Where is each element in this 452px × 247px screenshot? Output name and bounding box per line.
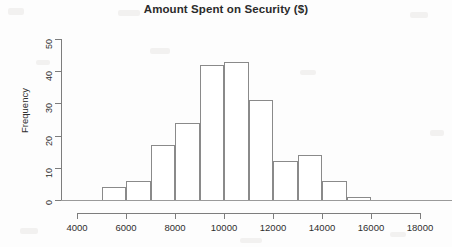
y-tick-label-40: 40 [44,71,54,93]
y-tick-30 [55,103,61,104]
histogram-bar [298,155,323,200]
y-tick-label-50: 50 [44,39,54,61]
y-tick-label-20: 20 [44,136,54,158]
x-tick-label-8000: 8000 [152,222,198,233]
x-tick-label-6000: 6000 [103,222,149,233]
x-tick-label-4000: 4000 [54,222,100,233]
x-tick-label-12000: 12000 [250,222,296,233]
x-tick-label-10000: 10000 [201,222,247,233]
histogram-chart: Amount Spent on Security ($) 0 10 20 30 … [0,0,452,247]
y-axis-title: Frequency [19,81,30,141]
histogram-bar [200,65,225,200]
histogram-bar [347,197,372,200]
x-tick-4000 [77,213,78,219]
y-tick-label-0: 0 [44,200,54,222]
y-axis-line [61,39,62,201]
histogram-bar [273,161,298,200]
y-tick-50 [55,39,61,40]
plot-baseline [61,200,452,201]
y-tick-label-10: 10 [44,168,54,190]
x-tick-18000 [420,213,421,219]
y-tick-10 [55,168,61,169]
y-tick-0 [55,200,61,201]
x-tick-label-16000: 16000 [348,222,394,233]
x-tick-label-18000: 18000 [397,222,443,233]
x-tick-6000 [126,213,127,219]
x-tick-16000 [371,213,372,219]
y-tick-20 [55,136,61,137]
histogram-bar [151,145,176,200]
histogram-bar [322,181,347,200]
histogram-bar [249,100,274,200]
x-tick-label-14000: 14000 [299,222,345,233]
x-tick-10000 [224,213,225,219]
y-tick-40 [55,71,61,72]
x-tick-8000 [175,213,176,219]
x-axis-line [77,213,420,214]
y-tick-label-30: 30 [44,103,54,125]
plot-area: 0 10 20 30 40 50 Frequency 4000 6000 800… [0,0,452,247]
histogram-bar [175,123,200,200]
x-tick-12000 [273,213,274,219]
histogram-bar [224,62,249,200]
histogram-bar [126,181,151,200]
histogram-bar [102,187,127,200]
x-tick-14000 [322,213,323,219]
